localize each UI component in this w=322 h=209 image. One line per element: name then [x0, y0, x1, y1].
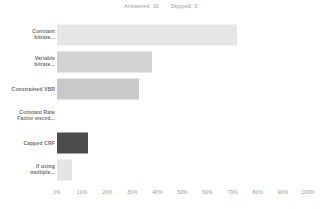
- x-axis: 0%10%20%30%40%50%60%70%80%90%100%: [57, 189, 308, 201]
- bar-track: [57, 24, 308, 45]
- bar-category-label: Constant Rate Factor encod...: [0, 109, 55, 122]
- answered-value: 16: [153, 3, 159, 9]
- bar-row: Constrained VBR: [0, 75, 322, 102]
- bar-row: Capped CRF: [0, 129, 322, 156]
- x-axis-tick-label: 60%: [202, 189, 213, 195]
- skipped-stat: Skipped: 0: [171, 3, 198, 9]
- answered-stat: Answered: 16: [124, 3, 159, 9]
- x-axis-tick-label: 80%: [253, 189, 264, 195]
- x-axis-tick-label: 90%: [278, 189, 289, 195]
- bar-category-label: Capped CRF: [0, 139, 55, 146]
- bar-chart: Answered: 16 Skipped: 0 Constant bitrate…: [0, 0, 322, 209]
- bar-track: [57, 132, 308, 153]
- bar: [57, 51, 152, 72]
- x-axis-tick-label: 0%: [53, 189, 61, 195]
- bar-row: If using multiple...: [0, 156, 322, 183]
- bar-rows: Constant bitrate...Variable bitrate...Co…: [0, 21, 322, 183]
- bar-track: [57, 78, 308, 99]
- x-axis-tick-label: 70%: [227, 189, 238, 195]
- survey-response-summary: Answered: 16 Skipped: 0: [0, 3, 322, 9]
- answered-label: Answered:: [124, 3, 151, 9]
- skipped-value: 0: [195, 3, 198, 9]
- bar: [57, 78, 139, 99]
- x-axis-tick-label: 10%: [77, 189, 88, 195]
- x-axis-tick-label: 50%: [177, 189, 188, 195]
- x-axis-tick-label: 20%: [102, 189, 113, 195]
- x-axis-tick-label: 40%: [152, 189, 163, 195]
- bar-track: [57, 51, 308, 72]
- bar-category-label: If using multiple...: [0, 163, 55, 176]
- bar-track: [57, 105, 308, 126]
- bar-row: Variable bitrate...: [0, 48, 322, 75]
- bar: [57, 24, 237, 45]
- x-axis-tick-label: 100%: [301, 189, 314, 195]
- x-axis-tick-label: 30%: [127, 189, 138, 195]
- bar-category-label: Variable bitrate...: [0, 55, 55, 68]
- skipped-label: Skipped:: [171, 3, 193, 9]
- bar-category-label: Constant bitrate...: [0, 28, 55, 41]
- bar-category-label: Constrained VBR: [0, 85, 55, 92]
- bar-row: Constant bitrate...: [0, 21, 322, 48]
- bar-row: Constant Rate Factor encod...: [0, 102, 322, 129]
- bar: [57, 132, 88, 153]
- bar: [57, 159, 72, 180]
- bar-track: [57, 159, 308, 180]
